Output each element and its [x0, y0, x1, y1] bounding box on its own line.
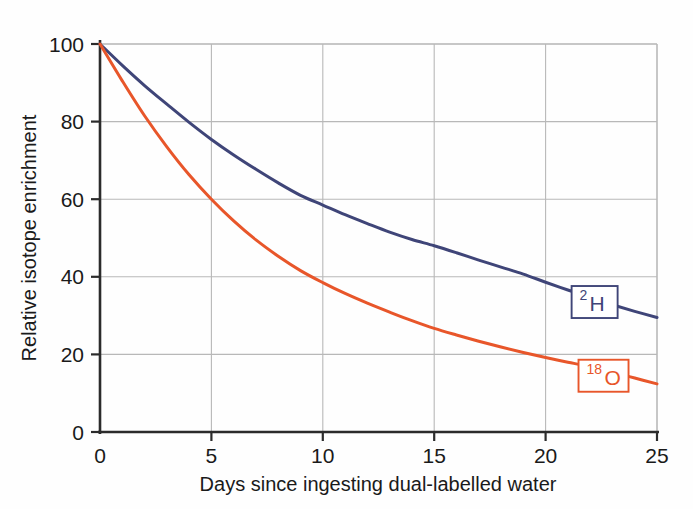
legend-superscript-18O: 18: [587, 361, 603, 377]
legend-superscript-2H: 2: [580, 287, 588, 303]
ytick-label-40: 40: [61, 265, 84, 288]
ytick-label-20: 20: [61, 343, 84, 366]
legend-element-2H: H: [590, 292, 605, 315]
ytick-label-0: 0: [72, 421, 84, 444]
ytick-label-60: 60: [61, 188, 84, 211]
chart-plot: 020406080100 0510152025 2H18O Days since…: [0, 0, 693, 509]
xtick-label-25: 25: [645, 444, 668, 467]
ytick-label-100: 100: [49, 33, 84, 56]
xtick-label-10: 10: [311, 444, 334, 467]
ytick-label-80: 80: [61, 110, 84, 133]
legend-label-2H: 2H: [572, 286, 618, 318]
y-axis-title: Relative isotope enrichment: [18, 114, 40, 361]
xtick-label-15: 15: [423, 444, 446, 467]
legend-label-18O: 18O: [579, 360, 629, 392]
x-axis-title: Days since ingesting dual-labelled water: [200, 473, 557, 495]
xtick-label-0: 0: [94, 444, 106, 467]
xtick-label-20: 20: [534, 444, 557, 467]
xtick-label-5: 5: [206, 444, 218, 467]
figure-canvas: 020406080100 0510152025 2H18O Days since…: [0, 0, 693, 509]
legend-element-18O: O: [605, 366, 621, 389]
